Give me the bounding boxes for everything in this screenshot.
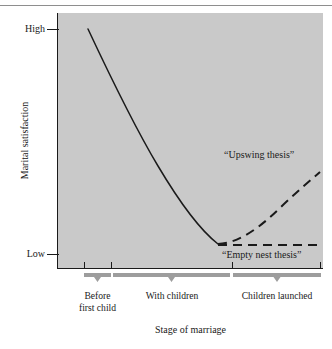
y-tick-mark-low xyxy=(47,254,59,255)
stage-label-before-first-child-line1: Before xyxy=(58,290,137,302)
stage-label-children-launched-line1: Children launched xyxy=(225,290,329,302)
stage-label-with-children: With children xyxy=(127,290,217,302)
y-tick-label-low: Low xyxy=(0,248,45,259)
annotation-empty-nest-thesis: “Empty nest thesis” xyxy=(222,249,301,260)
y-tick-mark-high xyxy=(47,29,59,30)
annotation-upswing-thesis: “Upswing thesis” xyxy=(224,149,294,160)
top-divider-rule xyxy=(0,5,332,6)
plot-area-background xyxy=(58,13,323,268)
y-axis-line xyxy=(57,13,58,269)
x-tick-mark-4 xyxy=(320,262,321,269)
x-axis-line xyxy=(57,268,323,269)
stage-label-with-children-line1: With children xyxy=(127,290,217,302)
x-tick-mark-3 xyxy=(232,262,233,269)
y-tick-label-high: High xyxy=(0,23,45,34)
y-axis-title: Marital satisfaction xyxy=(19,66,30,216)
x-tick-mark-2 xyxy=(111,262,112,269)
stage-bracket-with-children xyxy=(113,273,230,282)
marital-satisfaction-chart: High Low Marital satisfaction Before fir… xyxy=(0,0,332,349)
stage-bracket-children-launched xyxy=(233,273,321,282)
x-axis-title: Stage of marriage xyxy=(58,324,323,335)
stage-label-before-first-child-line2: first child xyxy=(58,302,137,314)
x-tick-mark-1 xyxy=(84,262,85,269)
stage-bracket-before-first-child xyxy=(84,273,111,282)
stage-label-before-first-child: Before first child xyxy=(58,290,137,314)
stage-label-children-launched: Children launched xyxy=(225,290,329,302)
